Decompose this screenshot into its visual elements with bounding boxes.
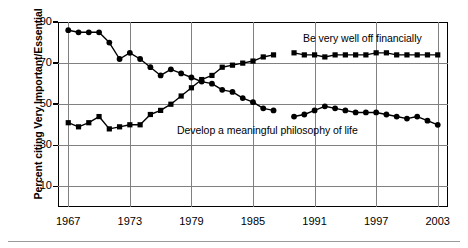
data-point-marker xyxy=(374,50,379,55)
data-point-marker xyxy=(66,120,71,125)
data-point-marker xyxy=(168,102,173,107)
data-point-marker xyxy=(291,50,296,55)
data-point-marker xyxy=(384,50,389,55)
data-point-marker xyxy=(425,118,431,124)
data-point-marker xyxy=(86,29,92,35)
data-point-marker xyxy=(404,52,409,57)
y-tick-label: 90 xyxy=(26,16,52,27)
footer-divider xyxy=(8,241,460,242)
data-point-marker xyxy=(230,63,235,68)
x-tick-label: 1985 xyxy=(230,216,276,227)
y-tick-mark xyxy=(53,186,58,188)
data-point-marker xyxy=(76,29,82,35)
data-point-marker xyxy=(373,110,379,116)
data-point-marker xyxy=(291,114,297,120)
plot-area xyxy=(58,22,448,207)
data-point-marker xyxy=(240,61,245,66)
y-tick-mark xyxy=(53,145,58,147)
x-tick-label: 1967 xyxy=(45,216,91,227)
data-point-marker xyxy=(333,52,338,57)
chart-figure: Percent citing Very Important/Essential … xyxy=(0,0,468,248)
y-tick-label: 50 xyxy=(26,98,52,109)
data-point-marker xyxy=(302,52,307,57)
data-point-marker xyxy=(343,52,348,57)
data-point-marker xyxy=(106,40,112,46)
data-point-marker xyxy=(138,122,143,127)
data-point-marker xyxy=(96,114,101,119)
data-point-marker xyxy=(158,73,164,79)
data-point-marker xyxy=(322,54,327,59)
y-tick-mark xyxy=(53,21,58,23)
y-tick-mark xyxy=(53,103,58,105)
data-point-marker xyxy=(301,112,307,118)
data-point-marker xyxy=(178,70,184,76)
data-point-marker xyxy=(260,105,266,111)
series-label-philosophy: Develop a meaningful philosophy of life xyxy=(177,124,358,136)
data-point-marker xyxy=(425,52,430,57)
data-point-marker xyxy=(353,52,358,57)
data-point-marker xyxy=(117,56,123,62)
data-point-marker xyxy=(209,81,215,87)
data-point-marker xyxy=(312,107,318,113)
data-point-marker xyxy=(414,114,420,120)
data-point-marker xyxy=(219,87,225,93)
data-point-marker xyxy=(312,52,317,57)
data-point-marker xyxy=(168,66,174,72)
data-point-marker xyxy=(199,79,205,85)
data-point-marker xyxy=(117,124,122,129)
x-tick-label: 1997 xyxy=(353,216,399,227)
data-point-marker xyxy=(271,107,277,113)
data-point-marker xyxy=(261,54,266,59)
data-point-marker xyxy=(127,50,133,56)
series-financial xyxy=(66,50,441,131)
data-point-marker xyxy=(415,52,420,57)
y-tick-label: 10 xyxy=(26,180,52,191)
data-point-marker xyxy=(363,52,368,57)
x-tick-label: 1973 xyxy=(107,216,153,227)
data-point-marker xyxy=(353,110,359,116)
data-point-marker xyxy=(65,27,71,33)
data-point-marker xyxy=(240,95,246,101)
data-point-marker xyxy=(322,103,328,109)
data-point-marker xyxy=(435,52,440,57)
data-point-marker xyxy=(76,124,81,129)
data-point-marker xyxy=(363,110,369,116)
data-point-marker xyxy=(230,89,236,95)
y-tick-mark xyxy=(53,62,58,64)
data-point-marker xyxy=(86,120,91,125)
y-tick-label: 70 xyxy=(26,57,52,68)
data-point-marker xyxy=(158,108,163,113)
data-point-marker xyxy=(179,93,184,98)
data-point-marker xyxy=(209,73,214,78)
data-point-marker xyxy=(404,116,410,122)
data-point-marker xyxy=(107,126,112,131)
data-point-marker xyxy=(148,112,153,117)
data-point-marker xyxy=(96,29,102,35)
y-tick-label: 30 xyxy=(26,139,52,150)
x-tick-label: 2003 xyxy=(415,216,461,227)
data-point-marker xyxy=(394,114,400,120)
data-point-marker xyxy=(250,99,256,105)
data-point-marker xyxy=(435,122,441,128)
data-point-marker xyxy=(250,58,255,63)
data-point-marker xyxy=(189,85,194,90)
x-tick-label: 1979 xyxy=(168,216,214,227)
series-label-financial: Be very well off financially xyxy=(303,32,422,44)
data-point-marker xyxy=(220,65,225,70)
data-point-marker xyxy=(127,122,132,127)
data-point-marker xyxy=(137,56,143,62)
series-layer xyxy=(58,22,448,207)
data-point-marker xyxy=(384,112,390,118)
data-point-marker xyxy=(394,52,399,57)
data-point-marker xyxy=(332,105,338,111)
x-tick-label: 1991 xyxy=(292,216,338,227)
data-point-marker xyxy=(342,107,348,113)
data-point-marker xyxy=(189,75,195,81)
data-point-marker xyxy=(271,52,276,57)
data-point-marker xyxy=(147,64,153,70)
